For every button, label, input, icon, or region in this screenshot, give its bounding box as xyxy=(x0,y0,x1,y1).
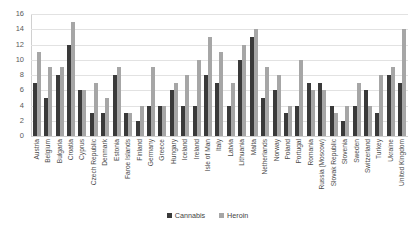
x-axis-tick: Switzerland xyxy=(362,137,373,209)
bar-group xyxy=(225,14,236,136)
bar-group xyxy=(328,14,339,136)
bar-heroin xyxy=(219,52,223,136)
x-axis-tick-label: Germany xyxy=(148,139,155,166)
x-axis-tick-label: Cyprus xyxy=(79,139,86,160)
bar-group xyxy=(214,14,225,136)
y-axis-tick-label: 16 xyxy=(16,10,24,18)
bar-group xyxy=(168,14,179,136)
x-axis-tick-label: Estonia xyxy=(113,139,120,161)
x-axis-tick-label: Netherlands xyxy=(262,139,269,175)
bar-group xyxy=(65,14,76,136)
bar-chart: 0246810121416 AustriaBelgiumBulgariaCroa… xyxy=(0,0,415,237)
x-axis-tick: Netherlands xyxy=(259,137,270,209)
y-axis-tick-label: 8 xyxy=(20,71,24,79)
x-axis-tick: Ireland xyxy=(191,137,202,209)
bar-heroin xyxy=(242,45,246,137)
x-axis-tick: Slovenia xyxy=(339,137,350,209)
y-axis-tick-label: 2 xyxy=(20,117,24,125)
x-axis-tick-label: Lithuania xyxy=(239,139,246,166)
x-axis-tick-label: Ireland xyxy=(193,139,200,159)
bar-group xyxy=(248,14,259,136)
x-axis-tick: Slovak Republic xyxy=(328,137,339,209)
x-axis-tick-label: Norway xyxy=(273,139,280,161)
x-axis-tick: Greece xyxy=(157,137,168,209)
legend-item-cannabis[interactable]: Cannabis xyxy=(167,212,205,219)
y-axis-tick-label: 12 xyxy=(16,41,24,49)
x-axis-tick-label: Bulgaria xyxy=(56,139,63,163)
x-axis-tick: Bulgaria xyxy=(54,137,65,209)
bar-group xyxy=(397,14,408,136)
y-axis-tick-label: 4 xyxy=(20,102,24,110)
bar-group xyxy=(202,14,213,136)
bar-heroin xyxy=(288,106,292,137)
bar-group xyxy=(351,14,362,136)
x-axis-tick-label: Croatia xyxy=(68,139,75,160)
bar-heroin xyxy=(379,75,383,136)
x-axis-tick: Ukraine xyxy=(385,137,396,209)
x-axis-tick: Finland xyxy=(134,137,145,209)
bar-heroin xyxy=(197,60,201,136)
y-axis-tick-label: 0 xyxy=(20,132,24,140)
legend-swatch-icon xyxy=(219,213,224,218)
bar-group xyxy=(122,14,133,136)
bar-heroin xyxy=(299,60,303,136)
x-axis-tick: Estonia xyxy=(111,137,122,209)
x-axis-tick: Poland xyxy=(282,137,293,209)
x-axis-tick-label: Italy xyxy=(216,139,223,151)
bar-group xyxy=(339,14,350,136)
x-axis-tick: Croatia xyxy=(65,137,76,209)
x-axis-tick: Portugal xyxy=(294,137,305,209)
bar-group xyxy=(271,14,282,136)
x-axis-tick: Italy xyxy=(214,137,225,209)
bar-heroin xyxy=(357,83,361,136)
bar-heroin xyxy=(117,67,121,136)
bar-heroin xyxy=(105,98,109,136)
bar-group xyxy=(134,14,145,136)
x-axis-tick: Faroe Islands xyxy=(122,137,133,209)
x-axis-tick-label: Russia (Moscow) xyxy=(319,139,326,190)
x-axis-tick-label: Hungary xyxy=(170,139,177,164)
bar-heroin xyxy=(37,52,41,136)
x-axis-tick: Denmark xyxy=(100,137,111,209)
x-axis-tick-label: Sweden xyxy=(353,139,360,163)
bar-group xyxy=(111,14,122,136)
plot-area xyxy=(31,14,408,136)
bar-heroin xyxy=(265,67,269,136)
x-axis-tick: Latvia xyxy=(225,137,236,209)
bar-heroin xyxy=(334,113,338,136)
y-axis-tick-label: 10 xyxy=(16,56,24,64)
x-axis-tick-label: Greece xyxy=(159,139,166,161)
bar-heroin xyxy=(82,90,86,136)
bar-heroin xyxy=(345,106,349,137)
x-axis-tick: Lithuania xyxy=(237,137,248,209)
x-axis-tick-label: Czech Republic xyxy=(91,139,98,185)
x-axis-tick: Cyprus xyxy=(77,137,88,209)
bar-heroin xyxy=(185,75,189,136)
x-axis-tick-label: Finland xyxy=(136,139,143,161)
x-axis-tick-label: Latvia xyxy=(228,139,235,157)
x-axis-tick-label: Faroe Islands xyxy=(125,139,132,179)
y-axis-tick-label: 14 xyxy=(16,26,24,34)
bar-group xyxy=(54,14,65,136)
y-axis: 0246810121416 xyxy=(0,14,28,136)
x-axis-tick-label: Denmark xyxy=(102,139,109,166)
bar-heroin xyxy=(368,106,372,137)
x-axis-tick: Romania xyxy=(305,137,316,209)
x-axis-tick-label: Portugal xyxy=(296,139,303,164)
bar-heroin xyxy=(277,75,281,136)
x-axis-tick-label: Poland xyxy=(285,139,292,160)
bar-group xyxy=(259,14,270,136)
bar-group xyxy=(294,14,305,136)
x-axis-tick-label: Slovak Republic xyxy=(330,139,337,186)
bar-group xyxy=(374,14,385,136)
legend-swatch-icon xyxy=(167,213,172,218)
legend-item-heroin[interactable]: Heroin xyxy=(219,212,248,219)
bar-heroin xyxy=(174,83,178,136)
bar-heroin xyxy=(94,83,98,136)
bar-group xyxy=(237,14,248,136)
x-axis-labels: AustriaBelgiumBulgariaCroatiaCyprusCzech… xyxy=(31,137,408,209)
bar-heroin xyxy=(60,67,64,136)
bar-group xyxy=(42,14,53,136)
chart-legend: CannabisHeroin xyxy=(0,212,415,219)
bar-heroin xyxy=(162,106,166,137)
